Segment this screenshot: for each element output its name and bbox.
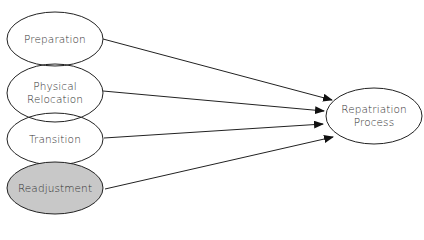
label-line: Process: [326, 116, 422, 129]
label-preparation: Preparation: [7, 33, 103, 46]
label-repatriation-process: Repatriation Process: [326, 103, 422, 129]
label-readjustment: Readjustment: [7, 182, 103, 195]
label-transition: Transition: [7, 133, 103, 146]
edge-physical-relocation-to-repatriation: [103, 91, 324, 111]
label-line: Physical: [7, 80, 103, 93]
edge-transition-to-repatriation: [104, 124, 323, 138]
label-line: Preparation: [24, 33, 86, 45]
label-line: Repatriation: [326, 103, 422, 116]
label-physical-relocation: Physical Relocation: [7, 80, 103, 106]
edge-readjustment-to-repatriation: [105, 137, 333, 189]
edge-preparation-to-repatriation: [103, 39, 332, 100]
label-line: Readjustment: [18, 182, 92, 194]
label-line: Transition: [29, 133, 81, 145]
label-line: Relocation: [7, 93, 103, 106]
